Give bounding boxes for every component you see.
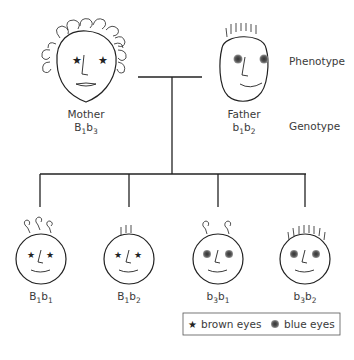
legend: ★ brown eyes blue eyes [183, 313, 340, 335]
genotype-label: Genotype [289, 120, 340, 132]
brown-eye-star-icon: ★ [188, 319, 197, 330]
mother-face [42, 19, 126, 102]
blue-eye-icon [225, 250, 233, 258]
straight-hair-icon [226, 23, 256, 37]
child-4-face [280, 225, 330, 284]
blue-eye-icon [234, 55, 243, 64]
child-3-genotype: b3b1 [207, 290, 230, 305]
blue-eye-icon [290, 250, 298, 258]
brown-eye-star-icon: ★ [134, 250, 142, 260]
blue-eye-icon [260, 55, 269, 64]
child-1-genotype: B1b1 [29, 290, 53, 305]
pedigree-diagram: ★ ★ Mother B1b3 Father b1b2 Phenotype Ge… [0, 0, 354, 360]
blue-eye-icon [203, 250, 211, 258]
legend-blue-label: blue eyes [284, 318, 335, 330]
father-label: Father [227, 108, 261, 120]
mother-genotype: B1b3 [74, 121, 98, 136]
child-3-face [193, 221, 243, 284]
phenotype-label: Phenotype [289, 55, 345, 67]
curly-hair-icon [24, 217, 52, 233]
brown-eye-star-icon: ★ [114, 250, 122, 260]
mother-label: Mother [67, 108, 105, 120]
blue-eye-icon [271, 320, 279, 328]
child-2-face [104, 225, 154, 284]
curly-hair-icon [203, 221, 231, 234]
blue-eye-icon [312, 250, 320, 258]
brown-eye-star-icon: ★ [46, 250, 54, 260]
child-1-face [16, 217, 66, 284]
brown-eye-star-icon: ★ [72, 54, 82, 67]
child-2-genotype: B1b2 [117, 290, 141, 305]
father-genotype: b1b2 [233, 121, 256, 136]
brown-eye-star-icon: ★ [27, 250, 35, 260]
legend-brown-label: brown eyes [201, 318, 261, 330]
brown-eye-star-icon: ★ [98, 54, 108, 67]
child-4-genotype: b3b2 [294, 290, 317, 305]
father-face [220, 23, 268, 101]
